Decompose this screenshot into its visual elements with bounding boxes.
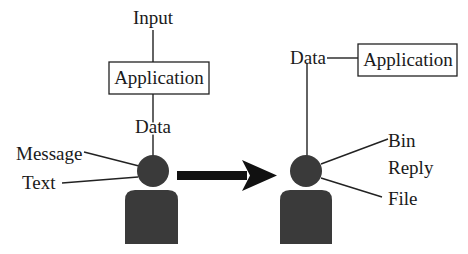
text-connector (62, 177, 138, 183)
transition-arrow-icon (177, 160, 277, 191)
bin-label: Bin (388, 130, 416, 151)
reply-label: Reply (388, 157, 434, 178)
left-application-label: Application (114, 67, 204, 88)
right-application-label: Application (363, 49, 453, 70)
left-data-label: Data (135, 116, 171, 137)
bin-connector (321, 139, 388, 164)
message-connector (84, 152, 139, 166)
left-person-body-icon (125, 190, 178, 244)
right-data-label: Data (290, 47, 326, 68)
left-input-label: Input (133, 7, 174, 28)
message-label: Message (16, 143, 82, 164)
text-label: Text (22, 172, 56, 193)
left-diagram: Input Application Data Message Text (16, 7, 209, 244)
right-person-body-icon (280, 190, 332, 244)
left-person-head-icon (137, 155, 169, 187)
right-diagram: Data Application Bin Reply File (280, 44, 457, 244)
diagram-canvas: Input Application Data Message Text Data… (0, 0, 468, 254)
file-label: File (388, 188, 418, 209)
right-person-head-icon (290, 155, 322, 187)
